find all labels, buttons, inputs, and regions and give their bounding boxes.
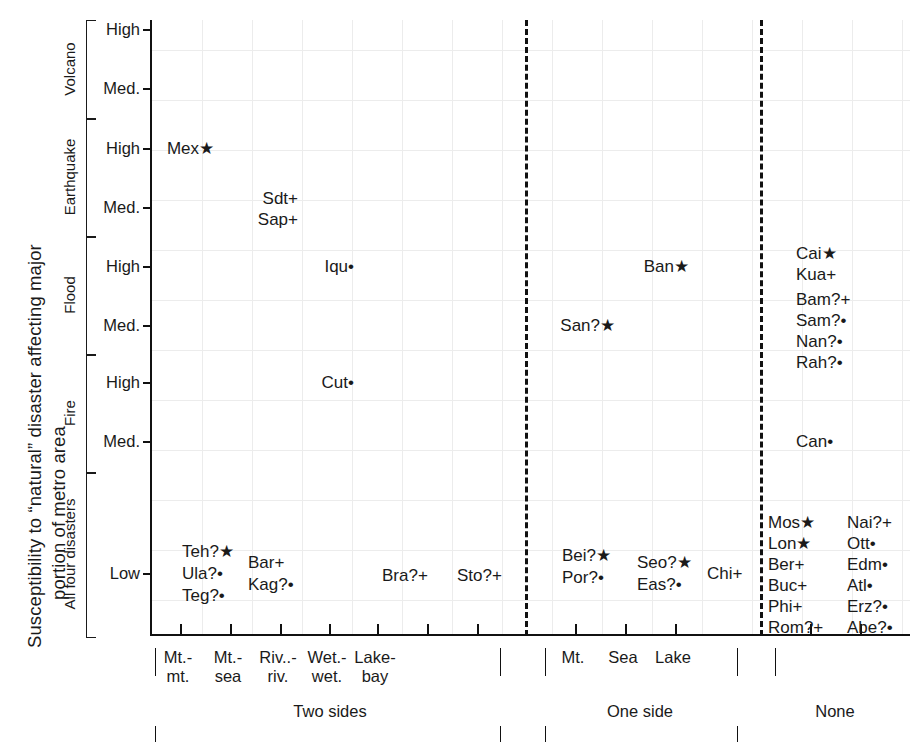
plot-area: Mex★Sdt+Sap+Iqu•Cut•Ban★San?★Cai★Kua+Bam…: [150, 20, 910, 636]
y-axis-tick: [143, 382, 152, 384]
data-point-label: Bam?+: [796, 291, 850, 308]
data-point-label: Eas?•: [637, 576, 682, 593]
gridline-vertical: [302, 20, 303, 634]
x-axis-tick: [575, 624, 577, 635]
y-axis-tick: [143, 325, 152, 327]
x-group-label: One side: [607, 702, 673, 721]
gridline-vertical: [552, 20, 553, 634]
gridline-vertical: [502, 20, 503, 634]
data-point-label: Bra?+: [382, 567, 428, 584]
data-point-label: Erz?•: [847, 598, 888, 615]
data-point-label: Bar+: [248, 554, 284, 571]
y-tick-label: High: [72, 374, 140, 391]
y-tick-label: Med.: [72, 80, 140, 97]
data-point-label: Sto?+: [457, 567, 502, 584]
y-tick-label: Med.: [72, 199, 140, 216]
y-category-bracket: [86, 354, 96, 474]
x-group-separator: [545, 726, 546, 742]
x-tick-label: Mt.: [562, 648, 585, 667]
x-group-separator: [775, 648, 776, 676]
x-group-separator: [500, 726, 501, 742]
y-category-label: Flood: [61, 276, 78, 314]
y-tick-label: Med.: [72, 433, 140, 450]
data-point-label: Mex★: [167, 140, 214, 157]
x-axis-tick: [230, 624, 232, 635]
data-point-label: Nan?•: [796, 333, 843, 350]
y-tick-label: High: [72, 21, 140, 38]
data-point-label: Sap+: [258, 211, 298, 228]
x-group-separator: [545, 648, 546, 676]
x-group-separator: [155, 726, 156, 742]
y-category-bracket: [86, 236, 96, 356]
data-point-label: Buc+: [768, 577, 807, 594]
gridline-vertical: [902, 20, 903, 634]
x-axis-tick: [280, 624, 282, 635]
gridline-horizontal: [152, 500, 910, 501]
y-category-bracket: [86, 472, 96, 638]
x-axis-tick: [180, 624, 182, 635]
data-point-label: Edm•: [847, 556, 888, 573]
group-divider: [760, 20, 763, 636]
x-axis-tick: [377, 624, 379, 635]
y-axis-tick: [143, 88, 152, 90]
y-axis-tick: [143, 29, 152, 31]
x-tick-label: Sea: [608, 648, 637, 667]
data-point-label: Bei?★: [562, 547, 611, 564]
x-group-label: None: [815, 702, 854, 721]
data-point-label: Nai?+: [847, 514, 892, 531]
data-point-label: Kua+: [796, 266, 836, 283]
y-category-label: Fire: [61, 400, 78, 426]
data-point-label: Ula?•: [182, 565, 223, 582]
data-point-label: Teg?•: [182, 587, 225, 604]
y-tick-label: High: [72, 140, 140, 157]
data-point-label: Cut•: [322, 374, 354, 391]
data-point-label: Por?•: [562, 569, 604, 586]
gridline-vertical: [252, 20, 253, 634]
x-group-separator: [500, 648, 501, 676]
y-axis-tick: [143, 148, 152, 150]
data-point-label: Rom?+: [768, 619, 823, 636]
x-axis-tick: [625, 624, 627, 635]
gridline-vertical: [652, 20, 653, 634]
x-group-separator: [737, 648, 738, 676]
data-point-label: Rah?•: [796, 354, 843, 371]
chart-root: Susceptibility to “natural” disaster aff…: [0, 0, 910, 751]
data-point-label: Ott•: [847, 535, 876, 552]
x-tick-label: Lake: [655, 648, 691, 667]
data-point-label: Kag?•: [248, 576, 294, 593]
data-point-label: San?★: [560, 317, 615, 334]
data-point-label: Mos★: [768, 514, 815, 531]
data-point-label: Can•: [796, 433, 833, 450]
data-point-label: Atl•: [847, 577, 873, 594]
data-point-label: Phi+: [768, 598, 803, 615]
x-axis-tick: [477, 624, 479, 635]
group-divider: [525, 20, 528, 636]
gridline-vertical: [452, 20, 453, 634]
x-tick-label: Mt.- sea: [214, 648, 242, 686]
y-tick-label: Med.: [72, 317, 140, 334]
data-point-label: Lon★: [768, 535, 811, 552]
y-tick-label: High: [72, 258, 140, 275]
x-group-label: Two sides: [293, 702, 366, 721]
data-point-label: Ber+: [768, 556, 804, 573]
x-group-separator: [737, 726, 738, 742]
x-axis-tick: [329, 624, 331, 635]
data-point-label: Cai★: [796, 245, 837, 262]
x-group-separator: [155, 648, 156, 676]
data-point-label: Seo?★: [637, 554, 692, 571]
gridline-horizontal: [152, 400, 910, 401]
data-point-label: Ban★: [644, 258, 689, 275]
gridline-vertical: [752, 20, 753, 634]
y-category-bracket: [86, 118, 96, 238]
x-axis-tick: [675, 624, 677, 635]
y-category-label: All four disasters: [61, 499, 78, 610]
gridline-vertical: [402, 20, 403, 634]
gridline-horizontal: [152, 50, 910, 51]
gridline-horizontal: [152, 150, 910, 151]
x-tick-label: Mt.- mt.: [164, 648, 192, 686]
data-point-label: Abe?•: [847, 619, 893, 636]
x-axis-tick: [427, 624, 429, 635]
gridline-horizontal: [152, 100, 910, 101]
gridline-vertical: [702, 20, 703, 634]
axis-title-line-1: Susceptibility to “natural” disaster aff…: [24, 244, 46, 648]
